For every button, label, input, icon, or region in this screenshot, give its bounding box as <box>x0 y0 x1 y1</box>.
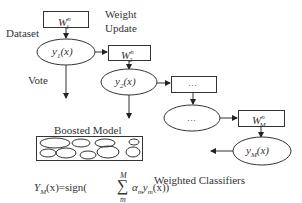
weight-label-m: WnM <box>252 111 266 131</box>
boosted-model-label: Boosted Model <box>54 124 122 136</box>
dataset-label: Dataset <box>6 27 39 39</box>
weight-label-1: Wn1 <box>58 13 69 33</box>
boosted-model-box <box>37 137 143 161</box>
classifier-label-1: y1(x) <box>52 45 73 62</box>
classifier-label-m: yM(x) <box>246 144 269 161</box>
sum-lower: m <box>120 194 126 203</box>
weight-update-label-line2: Update <box>105 22 137 34</box>
diagram-canvas <box>0 0 302 203</box>
vote-label: Vote <box>28 74 48 86</box>
weight-update-label-line1: Weight <box>105 8 137 20</box>
weight-label-2: Wn2 <box>121 46 132 66</box>
classifier-label-dots: … <box>187 112 196 124</box>
classifier-label-2: y2(x) <box>115 75 136 92</box>
sum-symbol: ∑ <box>117 178 128 194</box>
weight-label-dots: … <box>188 77 197 89</box>
